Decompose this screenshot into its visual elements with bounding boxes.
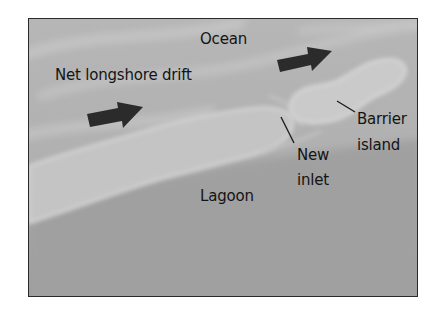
lagoon-label: Lagoon — [200, 189, 254, 204]
diagram-frame — [28, 18, 418, 297]
new-inlet-label-line1: New — [297, 148, 329, 163]
diagram-canvas — [29, 19, 418, 297]
new-inlet-label-line2: inlet — [297, 173, 329, 188]
barrier-label-line2: island — [357, 138, 400, 153]
barrier-label-line1: Barrier — [357, 112, 407, 127]
ocean-label: Ocean — [200, 32, 247, 47]
net-longshore-drift-label: Net longshore drift — [55, 68, 192, 83]
